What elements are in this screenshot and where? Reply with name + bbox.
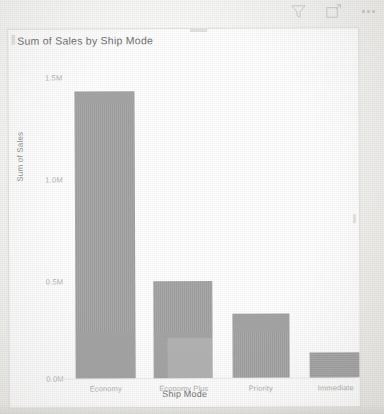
chart-plot-area: Sum of Sales 1.5M 1.0M 0.5M 0.0M Economy…	[8, 28, 360, 408]
bar-priority[interactable]	[232, 314, 289, 378]
bar-immediate[interactable]	[310, 352, 360, 377]
x-axis-title: Ship Mode	[10, 388, 360, 400]
filter-icon[interactable]	[289, 2, 308, 21]
bar-chart-visual-card[interactable]: Sum of Sales by Ship Mode Sum of Sales 1…	[7, 27, 361, 409]
visual-header-iconbar	[289, 2, 378, 21]
visual-resize-handle-right[interactable]	[353, 214, 356, 223]
bar-economy[interactable]	[74, 91, 135, 378]
bar-photo-artifact	[168, 338, 213, 378]
y-axis-title: Sum of Sales	[16, 132, 25, 182]
focus-mode-icon[interactable]	[324, 2, 343, 21]
more-options-icon[interactable]	[359, 2, 378, 21]
bar-economy-plus[interactable]	[153, 281, 212, 378]
y-axis-tick-label: 0.5M	[23, 278, 63, 287]
y-axis-tick-label: 1.0M	[23, 176, 63, 185]
y-axis-tick-label: 1.5M	[22, 74, 62, 83]
